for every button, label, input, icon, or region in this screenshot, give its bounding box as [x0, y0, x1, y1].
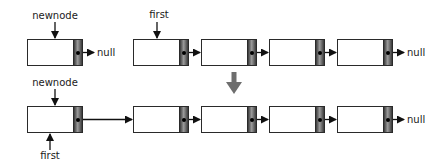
node-pointer-field	[179, 40, 188, 65]
node-pointer-field	[73, 107, 82, 132]
node-pointer-field	[247, 40, 256, 65]
list-node-top-4	[337, 39, 393, 66]
transition-down-arrow-icon	[226, 72, 242, 94]
pointer-dot-icon	[250, 118, 254, 122]
list-node-top-2	[201, 39, 257, 66]
node-pointer-field	[247, 107, 256, 132]
newnode-label-bottom: newnode	[32, 77, 78, 89]
pointer-dot-icon	[182, 118, 186, 122]
list-node-top-3	[269, 39, 325, 66]
node-data-field	[202, 40, 248, 65]
list-node-bottom-2	[201, 106, 257, 133]
first-label-top: first	[149, 9, 169, 21]
list-node-bottom-4	[337, 106, 393, 133]
node-pointer-field	[383, 107, 392, 132]
null-label-newnode: null	[97, 47, 115, 59]
node-pointer-field	[315, 107, 324, 132]
pointer-dot-icon	[250, 51, 254, 55]
null-label-bottom: null	[407, 114, 425, 126]
node-data-field	[28, 107, 74, 132]
pointer-dot-icon	[76, 118, 80, 122]
node-data-field	[338, 40, 384, 65]
pointer-dot-icon	[76, 51, 80, 55]
node-pointer-field	[73, 40, 82, 65]
null-label-top: null	[407, 47, 425, 59]
pointer-dot-icon	[318, 51, 322, 55]
newnode-box-top	[27, 39, 83, 66]
pointer-dot-icon	[182, 51, 186, 55]
pointer-dot-icon	[386, 51, 390, 55]
newnode-box-bottom	[27, 106, 83, 133]
node-pointer-field	[383, 40, 392, 65]
node-data-field	[202, 107, 248, 132]
pointer-dot-icon	[386, 118, 390, 122]
node-data-field	[134, 40, 180, 65]
linked-list-insert-diagram: newnode null first null newnode first nu…	[0, 0, 447, 168]
node-data-field	[270, 40, 316, 65]
node-data-field	[270, 107, 316, 132]
node-pointer-field	[179, 107, 188, 132]
list-node-bottom-3	[269, 106, 325, 133]
node-data-field	[338, 107, 384, 132]
pointer-dot-icon	[318, 118, 322, 122]
node-pointer-field	[315, 40, 324, 65]
first-label-bottom: first	[40, 150, 60, 162]
list-node-bottom-1	[133, 106, 189, 133]
node-data-field	[134, 107, 180, 132]
newnode-label-top: newnode	[32, 10, 78, 22]
node-data-field	[28, 40, 74, 65]
list-node-top-1	[133, 39, 189, 66]
